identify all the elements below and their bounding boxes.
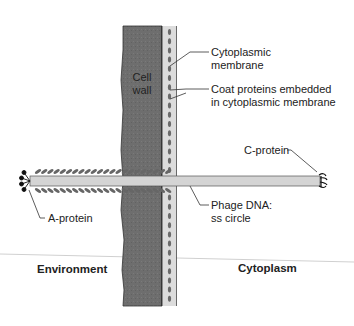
- coat-protein: [40, 168, 48, 175]
- membrane-protein: [168, 38, 171, 44]
- membrane-protein: [168, 158, 171, 164]
- phage-dna-rod: [30, 176, 320, 186]
- membrane-protein: [168, 57, 171, 63]
- membrane-protein: [168, 66, 171, 72]
- coat-protein: [34, 187, 42, 194]
- membrane-protein: [168, 296, 171, 302]
- coat-protein: [84, 187, 92, 194]
- coat-protein: [34, 168, 42, 175]
- membrane-protein: [168, 130, 171, 136]
- coat-protein: [90, 168, 98, 175]
- label-environment: Environment: [37, 263, 107, 275]
- membrane-protein: [168, 121, 171, 127]
- leader-c-protein: [287, 150, 317, 172]
- membrane-protein: [168, 112, 171, 118]
- coat-protein: [47, 168, 55, 175]
- coat-protein: [115, 187, 123, 194]
- coat-protein: [40, 187, 48, 194]
- phage-diagram: Cell wall Cytoplasmic membrane Coat prot…: [0, 0, 354, 326]
- coat-protein: [96, 187, 104, 194]
- coat-protein: [59, 168, 67, 175]
- label-cell-wall-line1: Cell: [133, 71, 152, 83]
- label-coat-proteins-line2: in cytoplasmic membrane: [211, 96, 336, 108]
- membrane-protein: [168, 231, 171, 237]
- label-coat-proteins-line1: Coat proteins embedded: [211, 83, 331, 95]
- label-cytoplasmic-membrane-line1: Cytoplasmic: [211, 46, 271, 58]
- leader-a-protein: [29, 190, 45, 218]
- membrane-protein: [168, 195, 171, 201]
- membrane-protein: [168, 222, 171, 228]
- coat-protein: [109, 187, 117, 194]
- membrane-protein: [168, 287, 171, 293]
- coat-protein: [109, 168, 117, 175]
- coat-protein: [65, 187, 73, 194]
- coat-protein: [115, 168, 123, 175]
- membrane-protein: [168, 139, 171, 145]
- cytoplasmic-membrane: [163, 26, 177, 306]
- label-cell-wall-line2: wall: [132, 84, 152, 96]
- membrane-protein: [168, 241, 171, 247]
- label-a-protein: A-protein: [48, 212, 93, 224]
- coat-protein: [65, 168, 73, 175]
- membrane-protein: [168, 47, 171, 53]
- region-divider-line: [0, 254, 354, 262]
- label-c-protein: C-protein: [244, 144, 289, 156]
- membrane-protein: [168, 29, 171, 35]
- membrane-protein: [168, 75, 171, 81]
- coat-protein: [71, 168, 79, 175]
- cell-wall: [121, 26, 162, 306]
- membrane-protein: [168, 149, 171, 155]
- leader-phage-dna: [190, 186, 209, 205]
- coat-protein: [90, 187, 98, 194]
- coat-protein: [71, 187, 79, 194]
- coat-protein: [59, 187, 67, 194]
- coat-protein: [102, 168, 110, 175]
- membrane-protein: [168, 259, 171, 265]
- coat-protein: [84, 168, 92, 175]
- a-protein-cluster: [20, 171, 31, 192]
- label-cytoplasm: Cytoplasm: [238, 262, 297, 274]
- membrane-protein: [168, 277, 171, 283]
- label-cytoplasmic-membrane-line2: membrane: [211, 59, 264, 71]
- coat-protein: [96, 168, 104, 175]
- coat-protein: [78, 187, 86, 194]
- membrane-protein: [168, 204, 171, 210]
- coat-protein: [102, 187, 110, 194]
- membrane-protein: [168, 213, 171, 219]
- membrane-protein: [168, 84, 171, 90]
- coat-protein: [78, 168, 86, 175]
- coat-protein: [53, 187, 61, 194]
- label-phage-dna-line2: ss circle: [211, 212, 251, 224]
- coat-protein: [47, 187, 55, 194]
- membrane-protein: [168, 250, 171, 256]
- label-phage-dna-line1: Phage DNA:: [211, 199, 272, 211]
- membrane-protein: [168, 103, 171, 109]
- coat-protein: [53, 168, 61, 175]
- membrane-protein: [168, 268, 171, 274]
